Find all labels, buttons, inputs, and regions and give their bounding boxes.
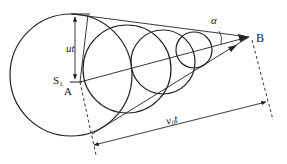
a-label: A <box>64 85 72 97</box>
axis-line-a-b <box>80 39 241 82</box>
b-label: B <box>256 31 264 45</box>
dashed-line-b <box>252 40 273 120</box>
s1-label: S1 <box>53 74 63 88</box>
v0t-label: v0t <box>165 112 180 129</box>
wavefront-circle-4 <box>176 32 212 68</box>
cone-upper-line <box>72 14 249 37</box>
dashed-line-a <box>80 82 96 155</box>
wavefront-circle-1 <box>10 14 132 136</box>
v0t-dimension-arrow <box>94 102 266 145</box>
radius-line <box>80 15 88 82</box>
alpha-label: α <box>211 14 217 26</box>
mach-cone-diagram: ut S1 A B α v0t <box>0 0 287 164</box>
wavefront-circle-3 <box>131 30 195 94</box>
ut-label: ut <box>66 42 76 54</box>
lower-arrowhead <box>228 45 237 52</box>
